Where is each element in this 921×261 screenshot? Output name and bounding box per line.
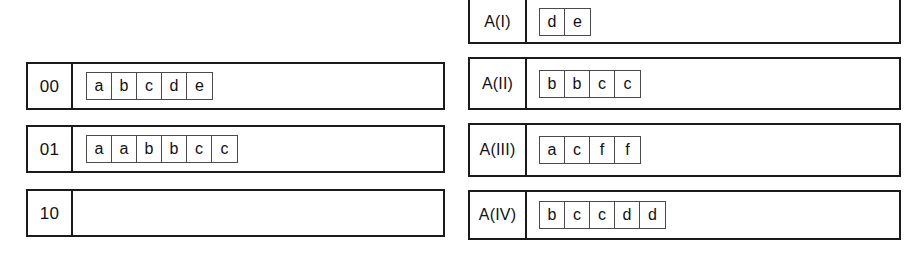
cell: b bbox=[112, 73, 137, 99]
cell: b bbox=[540, 71, 565, 97]
array-row-a4[interactable]: A(IV) b c c d d bbox=[468, 190, 901, 240]
cell: e bbox=[187, 73, 212, 99]
cell: a bbox=[112, 136, 137, 162]
cell: e bbox=[565, 9, 590, 35]
cell: c bbox=[590, 202, 615, 228]
array-row-a1-body: d e bbox=[527, 0, 899, 42]
array-row-a3-body: a c f f bbox=[527, 125, 899, 175]
diagram-canvas: 00 a b c d e 01 a a b b c bbox=[0, 0, 921, 261]
cell: c bbox=[615, 71, 640, 97]
cell: c bbox=[590, 71, 615, 97]
array-row-a4-label: A(IV) bbox=[470, 192, 527, 238]
cell: b bbox=[162, 136, 187, 162]
bucket-row-10-body bbox=[73, 191, 443, 235]
cell: d bbox=[162, 73, 187, 99]
array-row-a1[interactable]: A(I) d e bbox=[468, 0, 901, 44]
cell: d bbox=[540, 9, 565, 35]
bucket-row-01-label: 01 bbox=[28, 127, 73, 171]
cell: c bbox=[212, 136, 237, 162]
bucket-row-00[interactable]: 00 a b c d e bbox=[26, 62, 445, 110]
bucket-row-10-label: 10 bbox=[28, 191, 73, 235]
array-row-a2-label: A(II) bbox=[470, 59, 527, 108]
bucket-row-10[interactable]: 10 bbox=[26, 189, 445, 237]
array-row-a3[interactable]: A(III) a c f f bbox=[468, 123, 901, 177]
array-row-a2-body: b b c c bbox=[527, 59, 899, 108]
cell: a bbox=[540, 137, 565, 163]
cell: a bbox=[87, 73, 112, 99]
array-row-a4-body: b c c d d bbox=[527, 192, 899, 238]
array-row-a3-cells: a c f f bbox=[539, 136, 641, 164]
cell: c bbox=[187, 136, 212, 162]
array-row-a2[interactable]: A(II) b b c c bbox=[468, 57, 901, 110]
cell: b bbox=[137, 136, 162, 162]
cell: b bbox=[540, 202, 565, 228]
bucket-row-01[interactable]: 01 a a b b c c bbox=[26, 125, 445, 173]
bucket-row-01-body: a a b b c c bbox=[73, 127, 443, 171]
cell: c bbox=[565, 202, 590, 228]
array-row-a4-cells: b c c d d bbox=[539, 201, 666, 229]
bucket-row-00-cells: a b c d e bbox=[86, 72, 213, 100]
cell: c bbox=[565, 137, 590, 163]
array-row-a1-label: A(I) bbox=[470, 0, 527, 42]
cell: a bbox=[87, 136, 112, 162]
cell: d bbox=[640, 202, 665, 228]
array-row-a3-label: A(III) bbox=[470, 125, 527, 175]
cell: b bbox=[565, 71, 590, 97]
cell: d bbox=[615, 202, 640, 228]
array-row-a1-cells: d e bbox=[539, 8, 591, 36]
bucket-row-00-label: 00 bbox=[28, 64, 73, 108]
bucket-row-01-cells: a a b b c c bbox=[86, 135, 238, 163]
array-row-a2-cells: b b c c bbox=[539, 70, 641, 98]
cell: f bbox=[615, 137, 640, 163]
bucket-row-00-body: a b c d e bbox=[73, 64, 443, 108]
cell: f bbox=[590, 137, 615, 163]
cell: c bbox=[137, 73, 162, 99]
